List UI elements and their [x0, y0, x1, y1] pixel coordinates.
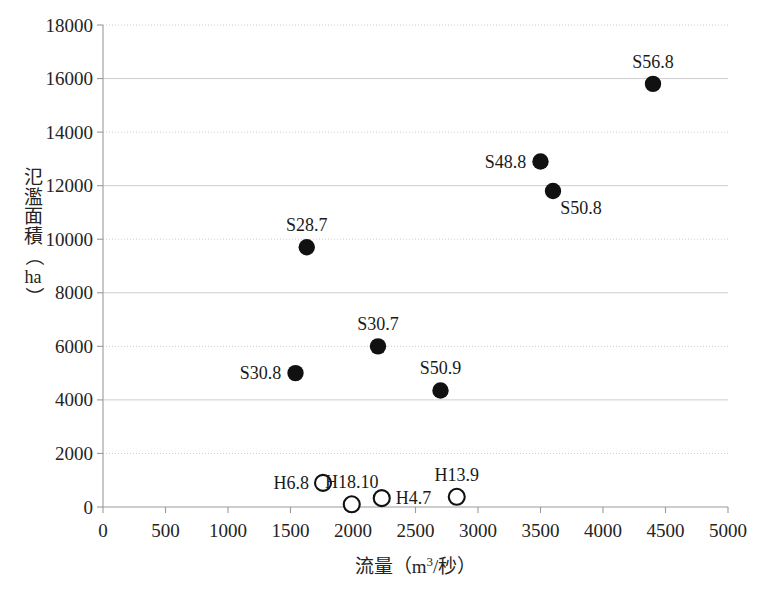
y-tick-label-0: 0: [84, 497, 94, 518]
x-tick-label-1500: 1500: [272, 520, 310, 541]
data-point-H13-9[interactable]: [449, 489, 465, 505]
y-tick-label-12000: 12000: [46, 175, 94, 196]
y-axis-title: 氾 濫 面 積 （ ha ）: [18, 168, 48, 308]
y-axis-title-open-paren: （: [23, 242, 43, 272]
x-tick-label-500: 500: [151, 520, 180, 541]
data-label-H13-9: H13.9: [435, 465, 480, 485]
x-tick-label-5000: 5000: [709, 520, 747, 541]
x-tick-label-0: 0: [98, 520, 108, 541]
data-point-S50-8[interactable]: [545, 183, 561, 199]
data-label-S30-8: S30.8: [240, 363, 282, 383]
scatter-plot: 0200040006000800010000120001400016000180…: [0, 0, 760, 595]
y-tick-label-10000: 10000: [46, 229, 94, 250]
y-tick-label-4000: 4000: [55, 389, 93, 410]
x-tick-label-2000: 2000: [334, 520, 372, 541]
data-label-H18-10: H18.10: [325, 472, 379, 492]
y-tick-label-6000: 6000: [55, 336, 93, 357]
x-axis-title: 流量（m3/秒）: [355, 554, 477, 578]
data-point-S30-8[interactable]: [287, 365, 303, 381]
y-tick-label-2000: 2000: [55, 443, 93, 464]
data-point-S48-8[interactable]: [532, 153, 548, 169]
data-point-S56-8[interactable]: [645, 76, 661, 92]
data-label-H6-8: H6.8: [274, 473, 310, 493]
x-tick-label-4500: 4500: [647, 520, 685, 541]
x-tick-label-3000: 3000: [459, 520, 497, 541]
y-tick-label-8000: 8000: [55, 282, 93, 303]
y-tick-label-14000: 14000: [46, 122, 94, 143]
y-tick-label-16000: 16000: [46, 68, 94, 89]
data-label-S50-8: S50.8: [560, 198, 602, 218]
data-point-S50-9[interactable]: [432, 382, 448, 398]
data-label-H4-7: H4.7: [396, 488, 432, 508]
y-axis-title-char-1: 濫: [18, 188, 48, 208]
data-label-S28-7: S28.7: [286, 215, 328, 235]
data-label-S56-8: S56.8: [632, 52, 674, 72]
x-tick-label-4000: 4000: [584, 520, 622, 541]
chart-canvas: 氾 濫 面 積 （ ha ） 0200040006000800010000120…: [0, 0, 760, 595]
data-label-S48-8: S48.8: [485, 152, 527, 172]
x-tick-label-1000: 1000: [209, 520, 247, 541]
x-tick-label-2500: 2500: [397, 520, 435, 541]
y-tick-label-18000: 18000: [46, 15, 94, 36]
y-axis-title-char-0: 氾: [18, 168, 48, 188]
data-point-S28-7[interactable]: [299, 239, 315, 255]
y-axis-title-close-paren: ）: [23, 282, 43, 312]
data-label-S50-9: S50.9: [420, 358, 462, 378]
data-point-H4-7[interactable]: [374, 490, 390, 506]
x-tick-label-3500: 3500: [522, 520, 560, 541]
data-label-S30-7: S30.7: [357, 314, 399, 334]
y-axis-title-char-2: 面: [18, 207, 48, 227]
data-point-S30-7[interactable]: [370, 338, 386, 354]
data-point-H18-10[interactable]: [344, 496, 360, 512]
